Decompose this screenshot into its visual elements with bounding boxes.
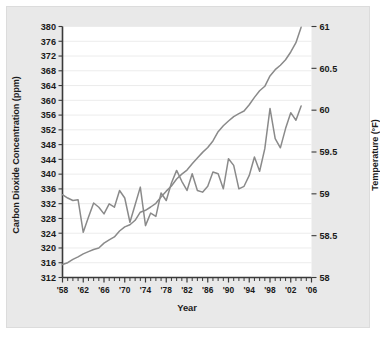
svg-text:332: 332 bbox=[41, 199, 56, 209]
y-axis-right-title: Temperature (°F) bbox=[370, 55, 380, 255]
svg-text:344: 344 bbox=[41, 155, 57, 165]
svg-text:328: 328 bbox=[41, 214, 56, 224]
svg-text:'86: '86 bbox=[202, 285, 214, 295]
svg-text:'02: '02 bbox=[285, 285, 297, 295]
svg-text:61: 61 bbox=[320, 22, 330, 32]
svg-text:356: 356 bbox=[41, 110, 56, 120]
y-axis-right-ticks: 5858.55959.56060.561 bbox=[312, 22, 338, 283]
svg-text:324: 324 bbox=[41, 229, 57, 239]
svg-text:368: 368 bbox=[41, 66, 56, 76]
svg-text:320: 320 bbox=[41, 243, 56, 253]
plot-area-background bbox=[63, 27, 312, 278]
svg-text:380: 380 bbox=[41, 22, 56, 32]
svg-text:352: 352 bbox=[41, 125, 56, 135]
svg-text:'90: '90 bbox=[223, 285, 235, 295]
x-axis-ticks: '58'62'66'70'74'78'82'86'90'94'98'02'06 bbox=[57, 278, 318, 296]
svg-text:'62: '62 bbox=[78, 285, 90, 295]
svg-text:364: 364 bbox=[41, 81, 57, 91]
svg-text:'82: '82 bbox=[181, 285, 193, 295]
svg-text:376: 376 bbox=[41, 37, 56, 47]
svg-text:59.5: 59.5 bbox=[320, 147, 338, 157]
svg-text:'94: '94 bbox=[244, 285, 256, 295]
y-axis-left-title: Carbon Dioxide Concentration (ppm) bbox=[11, 55, 21, 255]
svg-text:'66: '66 bbox=[98, 285, 110, 295]
svg-text:60.5: 60.5 bbox=[320, 64, 338, 74]
svg-text:58.5: 58.5 bbox=[320, 231, 338, 241]
y-axis-left-ticks: 3123163203243283323363403443483523563603… bbox=[41, 22, 63, 283]
svg-text:'58: '58 bbox=[57, 285, 69, 295]
svg-text:59: 59 bbox=[320, 189, 330, 199]
svg-text:372: 372 bbox=[41, 51, 56, 61]
svg-text:316: 316 bbox=[41, 258, 56, 268]
x-axis-title: Year bbox=[62, 302, 312, 313]
svg-text:58: 58 bbox=[320, 273, 330, 283]
svg-text:'70: '70 bbox=[119, 285, 131, 295]
svg-text:'78: '78 bbox=[161, 285, 173, 295]
svg-text:360: 360 bbox=[41, 96, 56, 106]
svg-text:60: 60 bbox=[320, 105, 330, 115]
svg-text:'98: '98 bbox=[264, 285, 276, 295]
svg-text:312: 312 bbox=[41, 273, 56, 283]
svg-text:'74: '74 bbox=[140, 285, 152, 295]
svg-text:348: 348 bbox=[41, 140, 56, 150]
svg-text:340: 340 bbox=[41, 169, 56, 179]
svg-text:'06: '06 bbox=[306, 285, 318, 295]
svg-text:336: 336 bbox=[41, 184, 56, 194]
